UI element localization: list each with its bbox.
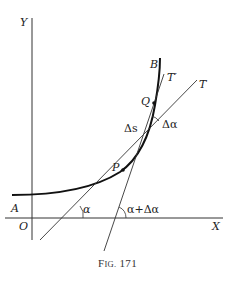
- y-axis-label: Y: [20, 17, 27, 28]
- figure-caption: FIG. 171: [0, 257, 235, 269]
- point-B-label: B: [150, 59, 158, 70]
- tangent-T: [40, 80, 197, 240]
- tangent-T-label: T: [199, 79, 206, 90]
- point-Q-label: Q: [141, 96, 150, 107]
- point-P: [121, 168, 125, 172]
- caption-smallcaps: IG.: [104, 259, 116, 269]
- angle-arc-alpha-plus-delta: [119, 207, 126, 218]
- delta-s-label: Δs: [124, 123, 138, 134]
- point-P-label: P: [112, 162, 119, 173]
- caption-number: 171: [120, 257, 137, 269]
- tangent-T-prime-label: T′: [167, 72, 177, 83]
- alpha-plus-delta-alpha-label: α+Δα: [127, 204, 159, 215]
- alpha-label: α: [83, 204, 90, 215]
- point-Q: [152, 101, 156, 105]
- delta-alpha-label: Δα: [162, 119, 177, 130]
- point-A-label: A: [11, 203, 19, 214]
- x-axis-label: X: [212, 221, 220, 232]
- diagram-canvas: [0, 0, 235, 283]
- origin-label: O: [19, 221, 28, 232]
